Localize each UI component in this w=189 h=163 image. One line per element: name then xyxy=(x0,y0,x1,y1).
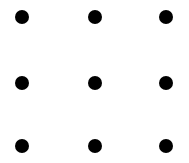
grid-dot xyxy=(15,76,29,90)
grid-dot xyxy=(15,10,29,24)
grid-dot xyxy=(159,76,173,90)
grid-dot xyxy=(88,76,102,90)
dot-grid-canvas xyxy=(0,0,189,163)
grid-dot xyxy=(159,139,173,153)
grid-dot xyxy=(159,10,173,24)
grid-dot xyxy=(15,139,29,153)
grid-dot xyxy=(88,10,102,24)
grid-dot xyxy=(88,139,102,153)
